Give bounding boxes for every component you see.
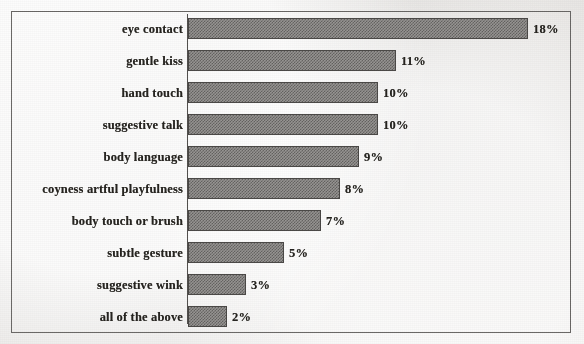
bar-row: hand touch 10% xyxy=(12,82,572,103)
bar-category-label: gentle kiss xyxy=(126,53,183,68)
bar-fill xyxy=(188,274,246,295)
bar-fill xyxy=(188,178,340,199)
bar-fill xyxy=(188,18,528,39)
bar-category-label: hand touch xyxy=(121,85,183,100)
bar-row: eye contact 18% xyxy=(12,18,572,39)
bar-row: coyness artful playfulness 8% xyxy=(12,178,572,199)
bar-value-label: 18% xyxy=(533,21,559,36)
bar-fill xyxy=(188,306,227,327)
bar-fill xyxy=(188,242,284,263)
bar-row: gentle kiss 11% xyxy=(12,50,572,71)
bar-category-label: coyness artful playfulness xyxy=(42,181,183,196)
bar-category-label: body language xyxy=(104,149,183,164)
bar-row: suggestive wink 3% xyxy=(12,274,572,295)
bar-row: subtle gesture 5% xyxy=(12,242,572,263)
bar-value-label: 8% xyxy=(345,181,364,196)
bar-value-label: 5% xyxy=(289,245,308,260)
bar-category-label: subtle gesture xyxy=(107,245,183,260)
bar-chart-plot-area: eye contact 18% gentle kiss 11% hand tou… xyxy=(12,12,572,334)
bar-category-label: eye contact xyxy=(122,21,183,36)
bar-value-label: 2% xyxy=(232,309,251,324)
bar-fill xyxy=(188,210,321,231)
bar-fill xyxy=(188,82,378,103)
bar-value-label: 3% xyxy=(251,277,270,292)
bar-category-label: suggestive talk xyxy=(103,117,183,132)
bar-fill xyxy=(188,50,396,71)
bar-value-label: 7% xyxy=(326,213,345,228)
bar-category-label: all of the above xyxy=(100,309,183,324)
chart-frame: eye contact 18% gentle kiss 11% hand tou… xyxy=(11,11,571,333)
bar-row: body touch or brush 7% xyxy=(12,210,572,231)
bar-fill xyxy=(188,114,378,135)
bar-value-label: 10% xyxy=(383,85,409,100)
bar-value-label: 9% xyxy=(364,149,383,164)
bar-category-label: suggestive wink xyxy=(97,277,183,292)
bar-category-label: body touch or brush xyxy=(72,213,183,228)
bar-fill xyxy=(188,146,359,167)
bar-row: all of the above 2% xyxy=(12,306,572,327)
scanned-page: eye contact 18% gentle kiss 11% hand tou… xyxy=(0,0,584,344)
bar-value-label: 10% xyxy=(383,117,409,132)
bar-row: suggestive talk 10% xyxy=(12,114,572,135)
bar-value-label: 11% xyxy=(401,53,426,68)
bar-row: body language 9% xyxy=(12,146,572,167)
